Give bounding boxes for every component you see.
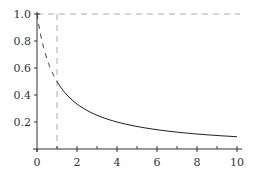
svg-text:8: 8 xyxy=(194,156,201,169)
y-tick-labels: 1.0 0.8 0.6 0.4 0.2 xyxy=(14,8,32,129)
svg-text:2: 2 xyxy=(74,156,81,169)
x-tick-labels: 0 2 4 6 8 10 xyxy=(34,156,245,169)
svg-text:0.2: 0.2 xyxy=(14,116,32,129)
svg-text:0: 0 xyxy=(34,156,41,169)
series-dashed-curve xyxy=(37,14,57,82)
svg-text:6: 6 xyxy=(154,156,161,169)
svg-text:1.0: 1.0 xyxy=(14,8,32,21)
svg-text:10: 10 xyxy=(230,156,244,169)
chart-canvas: 1.0 0.8 0.6 0.4 0.2 0 2 4 6 8 10 xyxy=(0,0,254,176)
series-solid-curve xyxy=(57,82,237,137)
svg-text:0.6: 0.6 xyxy=(14,62,32,75)
svg-text:4: 4 xyxy=(114,156,121,169)
svg-text:0.4: 0.4 xyxy=(14,89,32,102)
svg-text:0.8: 0.8 xyxy=(14,35,32,48)
